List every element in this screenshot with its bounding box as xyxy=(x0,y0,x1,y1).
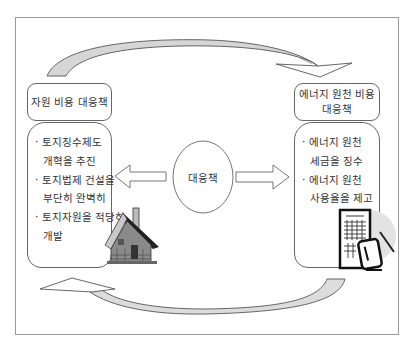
right-title-line1: 에너지 원천 비용 xyxy=(299,87,376,102)
left-item-1: · 토지징수제도 개혁을 추진 xyxy=(35,133,105,171)
bottom-curved-arrow-icon xyxy=(40,278,345,314)
left-title-box: 자원 비용 대응책 xyxy=(27,83,112,121)
right-arrow-icon xyxy=(236,165,289,189)
right-title-box: 에너지 원천 비용 대응책 xyxy=(294,83,380,121)
left-item-3: · 토지자원을 적당히 개발 xyxy=(35,208,105,246)
left-title: 자원 비용 대응책 xyxy=(31,95,108,110)
center-label: 대응책 xyxy=(172,141,233,214)
right-item-1: · 에너지 원천 세금을 징수 xyxy=(302,133,373,171)
house-icon xyxy=(103,205,161,265)
left-body-box: · 토지징수제도 개혁을 추진 · 토지법제 건설을 부단히 완벽히 · 토지자… xyxy=(27,122,112,268)
right-item-2: · 에너지 원천 사용율을 제고 xyxy=(302,171,373,209)
right-title-line2: 대응책 xyxy=(322,102,352,117)
left-item-2: · 토지법제 건설을 부단히 완벽히 xyxy=(35,171,105,209)
left-arrow-icon xyxy=(115,165,166,188)
top-curved-arrow-icon xyxy=(47,40,352,77)
document-calculator-icon xyxy=(336,206,398,274)
